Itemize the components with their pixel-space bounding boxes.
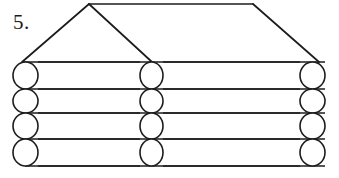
log-end-circle-left-row2: [13, 89, 38, 113]
left-log-end-circles-group: [13, 62, 38, 166]
log-end-circle-left-row1: [13, 62, 38, 89]
log-end-circle-middle-row4: [140, 139, 163, 166]
log-end-circle-middle-row1: [140, 62, 163, 89]
log-end-circle-right-row4: [300, 139, 325, 166]
log-end-circle-middle-row2: [140, 89, 163, 113]
right-log-end-circles-group: [300, 62, 325, 166]
log-line-overlay-group: [38, 62, 300, 166]
log-end-circle-right-row2: [300, 89, 325, 113]
figure-container: 5.: [0, 0, 339, 178]
roof-inner-diagonal-line: [89, 4, 152, 62]
log-end-circle-middle-row3: [140, 113, 163, 139]
middle-log-end-circles-group: [140, 62, 163, 166]
log-end-circle-right-row1: [300, 62, 325, 89]
log-end-circle-left-row4: [13, 139, 38, 166]
log-end-circle-right-row3: [300, 113, 325, 139]
roof-left-slope-line: [22, 4, 89, 62]
log-horizontal-lines-group: [22, 62, 325, 166]
roof-group: [22, 4, 319, 62]
roof-right-slope-line: [253, 4, 319, 62]
log-end-circle-left-row3: [13, 113, 38, 139]
log-stack-drawing: [0, 0, 339, 178]
